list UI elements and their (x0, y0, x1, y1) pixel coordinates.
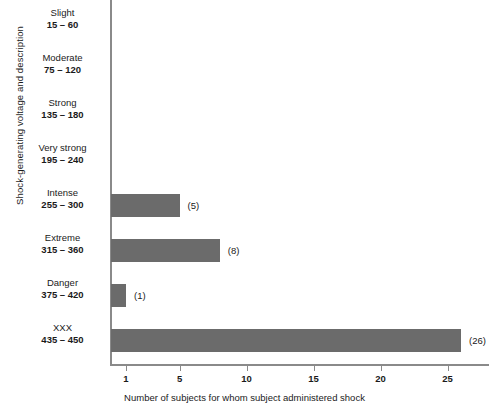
category-axis-labels: Slight15 – 60Moderate75 – 120Strong135 –… (20, 0, 105, 365)
category-voltage-range: 375 – 420 (20, 289, 105, 301)
x-tick-label: 25 (428, 373, 468, 384)
x-tick-mark (247, 365, 248, 371)
category-name: Very strong (20, 142, 105, 154)
x-tick-mark (448, 365, 449, 371)
category-label: Danger375 – 420 (20, 277, 105, 301)
bar-value-label: (5) (188, 194, 200, 217)
x-tick-mark (314, 365, 315, 371)
category-voltage-range: 435 – 450 (20, 334, 105, 346)
x-axis-title: Number of subjects for whom subject admi… (0, 392, 489, 403)
category-name: Intense (20, 187, 105, 199)
bar (111, 194, 180, 217)
bar-value-label: (1) (134, 284, 146, 307)
x-tick-label: 20 (361, 373, 401, 384)
category-voltage-range: 195 – 240 (20, 154, 105, 166)
category-voltage-range: 315 – 360 (20, 244, 105, 256)
category-label: Strong135 – 180 (20, 97, 105, 121)
category-name: Slight (20, 7, 105, 19)
bar (111, 284, 126, 307)
x-tick-label: 10 (227, 373, 267, 384)
bar-chart: Shock-generating voltage and description… (0, 0, 489, 413)
category-voltage-range: 15 – 60 (20, 19, 105, 31)
x-axis-ticks: 1510152025 (110, 365, 489, 395)
category-name: Danger (20, 277, 105, 289)
category-voltage-range: 255 – 300 (20, 199, 105, 211)
category-label: Extreme315 – 360 (20, 232, 105, 256)
category-voltage-range: 135 – 180 (20, 109, 105, 121)
x-tick-mark (381, 365, 382, 371)
x-tick-label: 1 (106, 373, 146, 384)
y-axis-line (110, 0, 112, 365)
bar (111, 239, 220, 262)
category-label: Moderate75 – 120 (20, 52, 105, 76)
category-name: XXX (20, 322, 105, 334)
category-name: Strong (20, 97, 105, 109)
x-tick-label: 15 (294, 373, 334, 384)
category-label: Slight15 – 60 (20, 7, 105, 31)
bar (111, 329, 461, 352)
category-name: Extreme (20, 232, 105, 244)
category-voltage-range: 75 – 120 (20, 64, 105, 76)
bar-value-label: (8) (228, 239, 240, 262)
x-tick-mark (180, 365, 181, 371)
category-label: Very strong195 – 240 (20, 142, 105, 166)
category-label: Intense255 – 300 (20, 187, 105, 211)
plot-area: (5)(8)(1)(26) (110, 0, 489, 365)
category-label: XXX435 – 450 (20, 322, 105, 346)
x-tick-label: 5 (160, 373, 200, 384)
bar-value-label: (26) (469, 329, 486, 352)
x-tick-mark (126, 365, 127, 371)
category-name: Moderate (20, 52, 105, 64)
